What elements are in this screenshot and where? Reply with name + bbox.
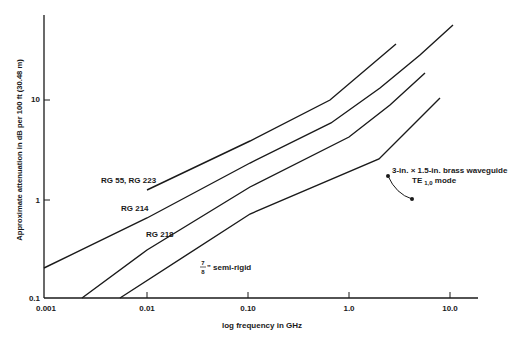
y-tick-label-0.1: 0.1 [29, 294, 41, 303]
label-rg55-rg223: RG 55, RG 223 [101, 176, 157, 185]
series-semi-rigid [120, 98, 440, 298]
label-semi-rigid: 7 8 " semi-rigid [200, 260, 251, 275]
fraction-numerator: 7 [201, 260, 205, 266]
label-rg214: RG 214 [121, 204, 149, 213]
x-axis-title: log frequency in GHz [222, 321, 302, 330]
waveguide-end-dot [410, 197, 414, 201]
label-waveguide-line1: 3-in. × 1.5-in. brass waveguide [392, 166, 508, 175]
label-waveguide-line2: TE1,0 mode [412, 176, 457, 186]
fraction-denominator: 8 [201, 269, 205, 275]
waveguide-start-dot [386, 174, 390, 178]
y-axis-title: Approximate attenuation in dB per 100 ft… [15, 59, 24, 241]
y-tick-label-1: 1 [36, 196, 41, 205]
x-tick-label-1.0: 1.0 [343, 304, 355, 313]
series-waveguide [388, 176, 412, 199]
x-tick-label-0.001: 0.001 [36, 304, 57, 313]
x-tick-label-0.10: 0.10 [240, 304, 256, 313]
series-rg218 [82, 73, 425, 298]
label-rg218: RG 218 [146, 230, 174, 239]
y-tick-label-10: 10 [31, 95, 40, 104]
semi-rigid-text: " semi-rigid [207, 263, 251, 272]
x-tick-label-0.01: 0.01 [139, 304, 155, 313]
attenuation-chart: 10 1 0.1 0.001 0.01 0.10 1.0 10.0 log fr… [0, 0, 515, 344]
x-tick-label-10.0: 10.0 [442, 304, 458, 313]
